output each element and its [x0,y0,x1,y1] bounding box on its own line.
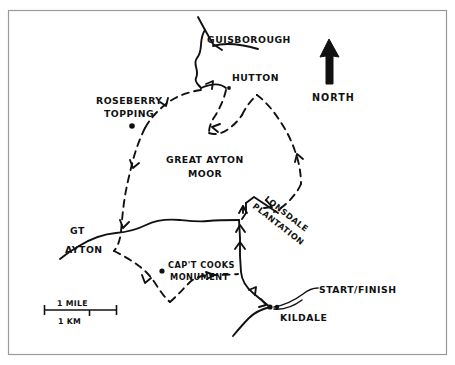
label-hutton: HUTTON [232,72,279,83]
label-roseberry-topping-line2: TOPPING [104,108,154,119]
label-gt-ayton-line1: GT [70,225,85,236]
label-great-ayton-moor-line2: MOOR [188,168,222,179]
label-gt-ayton-line2: AYTON [65,244,103,255]
dot-kildale [267,304,272,309]
dot-roseberry-topping [129,123,135,129]
hand-drawn-route-map: NORTH 1 MILE 1 KM GUISBOROUGH HUTTON ROS… [0,0,455,365]
dot-capt-cooks-monument [159,268,164,273]
dot-hutton [227,86,231,90]
label-kildale: KILDALE [280,312,327,323]
label-capt-cooks-line1: CAP'T COOKS [168,260,235,270]
label-roseberry-topping-line1: ROSEBERRY [96,95,163,106]
label-capt-cooks-line2: MONUMENT [170,272,229,282]
label-guisborough: GUISBOROUGH [207,34,291,45]
label-start-finish: START/FINISH [319,284,397,295]
label-great-ayton-moor-line1: GREAT AYTON [166,154,244,165]
map-canvas: NORTH 1 MILE 1 KM GUISBOROUGH HUTTON ROS… [0,0,455,365]
scale-miles-label: 1 MILE [57,299,88,308]
dot-start-finish [275,305,279,309]
scale-km-label: 1 KM [58,317,81,326]
north-label: NORTH [312,92,355,103]
